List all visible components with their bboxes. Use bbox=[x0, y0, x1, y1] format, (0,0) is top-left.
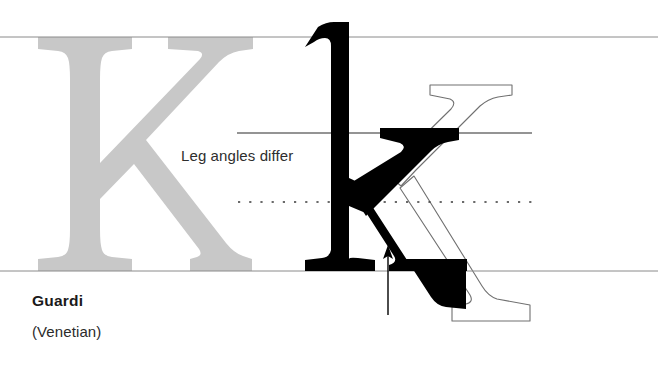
letterform-comparison-diagram bbox=[0, 0, 658, 367]
solid-lowercase-k-glyph bbox=[305, 22, 467, 309]
figure-canvas: Leg angles differ Guardi (Venetian) bbox=[0, 0, 658, 367]
leg-junction-arrow bbox=[383, 245, 393, 315]
typeface-name-label: Guardi bbox=[32, 292, 83, 310]
leg-angles-annotation: Leg angles differ bbox=[181, 147, 293, 164]
typeface-classification-label: (Venetian) bbox=[32, 323, 101, 340]
